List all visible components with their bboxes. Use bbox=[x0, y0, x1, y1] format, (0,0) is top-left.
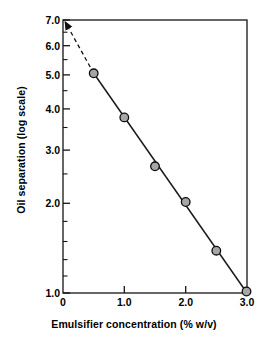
y-major-ticks bbox=[63, 20, 70, 293]
y-axis-label: Oil separation (log scale) bbox=[15, 86, 27, 213]
y-minor-ticks bbox=[63, 32, 68, 276]
x-major-ticks bbox=[124, 286, 185, 293]
y-tick-label: 4.0 bbox=[36, 103, 60, 115]
y-tick-label-group: 7.0 6.0 5.0 4.0 3.0 2.0 1.0 bbox=[34, 0, 60, 339]
data-point bbox=[212, 246, 221, 255]
chart-figure: Oil separation (log scale) 7.0 6.0 5.0 4… bbox=[0, 0, 268, 339]
y-tick-label: 2.0 bbox=[36, 197, 60, 209]
x-tick-label: 0 bbox=[60, 296, 66, 308]
data-point bbox=[89, 69, 98, 78]
data-point bbox=[120, 113, 129, 122]
y-tick-label: 3.0 bbox=[36, 144, 60, 156]
regression-line bbox=[94, 73, 247, 293]
x-tick-label: 1.0 bbox=[117, 296, 132, 308]
y-tick-label: 1.0 bbox=[36, 287, 60, 299]
y-axis-label-wrapper: Oil separation (log scale) bbox=[8, 0, 34, 300]
x-tick-label: 2.0 bbox=[178, 296, 193, 308]
y-tick-label: 7.0 bbox=[36, 14, 60, 26]
x-tick-label: 3.0 bbox=[240, 296, 255, 308]
data-point bbox=[181, 198, 190, 207]
extrapolation-line bbox=[66, 23, 94, 74]
data-point bbox=[242, 287, 251, 296]
y-tick-label: 5.0 bbox=[36, 69, 60, 81]
y-tick-label: 6.0 bbox=[36, 40, 60, 52]
data-point bbox=[151, 162, 160, 171]
x-axis-label: Emulsifier concentration (% w/v) bbox=[0, 318, 268, 330]
